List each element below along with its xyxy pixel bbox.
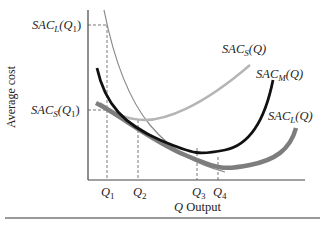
- sacs-q1-label: SACS(Q1): [31, 103, 80, 119]
- q2-tick: Q2: [133, 185, 147, 201]
- y-axis-label: Average cost: [4, 65, 18, 128]
- sac-l-curve: [96, 103, 296, 168]
- thin-curve: [104, 10, 225, 172]
- q4-tick: Q4: [213, 185, 227, 201]
- q1-tick: Q1: [101, 185, 115, 201]
- sacl-curve-label: SACL(Q): [268, 109, 313, 125]
- sac-s-curve: [100, 65, 250, 120]
- sacs-curve-label: SACS(Q): [222, 42, 266, 58]
- q3-tick: Q3: [192, 185, 206, 201]
- cost-curves-chart: Average cost SACL(Q1) SACS(Q1) SACS(Q) S…: [0, 0, 325, 225]
- x-axis-label: Q Output: [174, 200, 221, 214]
- sacl-q1-label: SACL(Q1): [32, 18, 81, 34]
- sacm-curve-label: SACM(Q): [256, 67, 303, 83]
